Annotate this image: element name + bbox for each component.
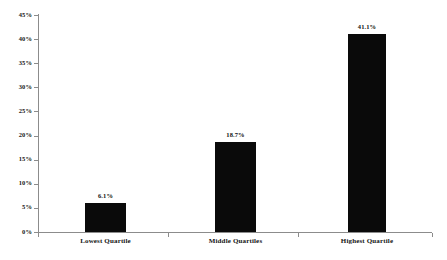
- x-axis-category-label: Middle Quartiles: [175, 238, 296, 245]
- y-axis-label: 10%: [0, 180, 32, 187]
- y-axis-line: [38, 14, 39, 233]
- x-axis-tick: [432, 233, 433, 237]
- y-axis-label: 45%: [0, 12, 32, 19]
- y-axis-label: 5%: [0, 204, 32, 211]
- bar-value-label: 41.1%: [328, 24, 406, 31]
- y-axis-label: 0%: [0, 229, 32, 236]
- y-axis-label: 35%: [0, 60, 32, 67]
- bar-value-label: 6.1%: [65, 193, 146, 200]
- x-axis-category-label: Lowest Quartile: [45, 238, 166, 245]
- y-axis-tick: [34, 136, 38, 137]
- bar: [85, 203, 126, 232]
- y-axis-label: 30%: [0, 84, 32, 91]
- y-axis-tick: [34, 15, 38, 16]
- x-axis-line: [38, 232, 432, 233]
- y-axis-tick: [34, 63, 38, 64]
- y-axis-label: 25%: [0, 108, 32, 115]
- y-axis-tick: [34, 184, 38, 185]
- y-axis-tick: [34, 160, 38, 161]
- y-axis-tick: [34, 208, 38, 209]
- bar-value-label: 18.7%: [195, 132, 276, 139]
- bar-chart: 45%40%35%30%25%20%15%10%5%0% 6.1%Lowest …: [0, 0, 447, 260]
- x-axis-category-label: Highest Quartile: [308, 238, 426, 245]
- y-axis-label: 20%: [0, 132, 32, 139]
- y-axis-tick: [34, 39, 38, 40]
- x-axis-tick: [168, 233, 169, 237]
- bar: [215, 142, 256, 232]
- y-axis-label: 40%: [0, 36, 32, 43]
- bar: [348, 34, 386, 232]
- x-axis-tick: [38, 233, 39, 237]
- x-axis-tick: [298, 233, 299, 237]
- y-axis-tick: [34, 87, 38, 88]
- y-axis-tick: [34, 111, 38, 112]
- y-axis-label: 15%: [0, 156, 32, 163]
